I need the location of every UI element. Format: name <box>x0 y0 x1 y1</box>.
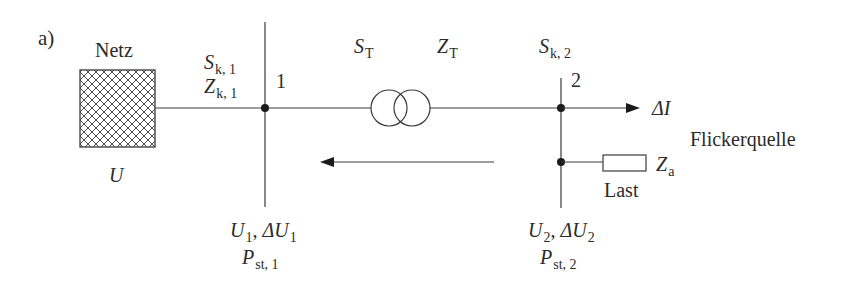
flicker-source-label: Flickerquelle <box>690 129 796 149</box>
grid-source-title: Netz <box>95 40 133 60</box>
panel-label: a) <box>38 28 54 49</box>
bus2-voltage: U2, ΔU2 <box>528 220 595 240</box>
bus1-number: 1 <box>276 71 286 91</box>
bus2-short-circuit-power: Sk, 2 <box>539 36 571 56</box>
transformer-power: ST <box>354 36 374 56</box>
arrow-right-icon <box>561 103 640 113</box>
bus1-node <box>261 104 269 112</box>
bus2-number: 2 <box>571 70 581 90</box>
bus1-short-circuit-impedance: Zk, 1 <box>204 76 237 96</box>
grid-voltage-label: U <box>109 165 123 185</box>
arrow-left-icon <box>320 157 494 167</box>
transformer-impedance: ZT <box>437 36 458 56</box>
resistor-icon <box>603 155 646 171</box>
bus1-short-circuit-power: Sk, 1 <box>204 52 236 72</box>
current-change-label: ΔI <box>652 98 670 118</box>
hatched-square-icon <box>80 70 155 147</box>
load-label: Last <box>604 180 638 200</box>
bus1-voltage: U1, ΔU1 <box>230 220 297 240</box>
transformer-icon <box>371 90 430 126</box>
bus1-flicker: Pst, 1 <box>242 247 279 267</box>
load-impedance: Za <box>656 154 674 174</box>
bus2-flicker: Pst, 2 <box>540 247 577 267</box>
